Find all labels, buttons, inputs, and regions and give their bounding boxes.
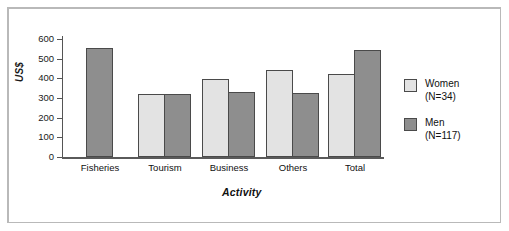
y-axis-title: US$: [14, 62, 25, 82]
y-tick-label: 300: [38, 93, 54, 103]
legend-swatch-men-icon: [404, 118, 417, 131]
bar-total-men[interactable]: [354, 50, 381, 157]
bar-business-men[interactable]: [228, 92, 255, 157]
x-tick-label-total: Total: [345, 163, 365, 173]
x-tick-label-fisheries: Fisheries: [81, 163, 120, 173]
x-tick-label-business: Business: [210, 163, 249, 173]
legend-item-women[interactable]: Women (N=34): [404, 78, 461, 103]
legend-item-men[interactable]: Men (N=117): [404, 117, 461, 142]
bar-others-women[interactable]: [266, 70, 293, 157]
legend-label-men-count: (N=117): [425, 130, 461, 143]
x-tick-label-tourism: Tourism: [148, 163, 181, 173]
legend-label-men: Men (N=117): [425, 117, 461, 142]
bar-group-business: [202, 39, 264, 157]
y-tick-mark: [57, 59, 62, 60]
y-tick-label: 100: [38, 133, 54, 143]
plot-area: 600 500 400 300 200 100 0: [62, 39, 382, 157]
y-tick-mark: [57, 39, 62, 40]
legend-label-women-count: (N=34): [425, 91, 459, 104]
bar-group-tourism: [138, 39, 200, 157]
legend-label-women: Women (N=34): [425, 78, 459, 103]
x-tick-label-others: Others: [279, 163, 308, 173]
x-axis-title: Activity: [222, 186, 262, 198]
chart-legend: Women (N=34) Men (N=117): [404, 78, 461, 156]
y-tick-mark: [57, 157, 62, 158]
bar-tourism-men[interactable]: [164, 94, 191, 157]
bar-fisheries-men[interactable]: [86, 48, 113, 157]
legend-label-women-name: Women: [425, 78, 459, 91]
bar-business-women[interactable]: [202, 79, 229, 157]
y-tick-mark: [57, 78, 62, 79]
bar-group-fisheries: [76, 39, 124, 157]
chart-figure: US$ 600 500 400 300 200 100 0: [0, 0, 509, 231]
bar-total-women[interactable]: [328, 74, 355, 157]
legend-swatch-women-icon: [404, 79, 417, 92]
bar-group-total: [328, 39, 390, 157]
x-axis-line: [62, 157, 384, 159]
bar-tourism-women[interactable]: [138, 94, 165, 157]
bar-group-others: [266, 39, 328, 157]
y-tick-mark: [57, 118, 62, 119]
bar-others-men[interactable]: [292, 93, 319, 157]
y-tick-label: 200: [38, 113, 54, 123]
y-tick-label: 600: [38, 34, 54, 44]
y-tick-mark: [57, 137, 62, 138]
y-tick-label: 400: [38, 74, 54, 84]
y-tick-mark: [57, 98, 62, 99]
legend-label-men-name: Men: [425, 117, 461, 130]
y-tick-label: 500: [38, 54, 54, 64]
y-tick-label: 0: [49, 152, 54, 162]
